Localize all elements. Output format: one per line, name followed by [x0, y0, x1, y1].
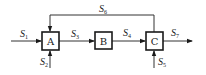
- stream-s3-label: S3: [71, 28, 79, 40]
- unit-b-label: B: [100, 36, 107, 47]
- stream-s2-label: S2: [40, 56, 48, 68]
- stream-s1-label: S1: [20, 28, 28, 40]
- stream-s6-recycle-line: [50, 15, 154, 32]
- stream-s7-label: S7: [171, 27, 179, 39]
- stream-s5-label: S5: [158, 56, 166, 68]
- unit-a: A: [42, 32, 59, 50]
- unit-c: C: [146, 32, 163, 50]
- process-flow-diagram: A B C S1 S2 S3 S4 S5 S6 S7: [0, 0, 206, 75]
- unit-c-label: C: [151, 36, 159, 47]
- unit-a-label: A: [46, 36, 55, 47]
- stream-s6-label: S6: [99, 3, 107, 15]
- unit-b: B: [95, 32, 112, 49]
- stream-s4-label: S4: [123, 27, 131, 39]
